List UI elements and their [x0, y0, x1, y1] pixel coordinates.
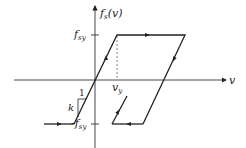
yield-displacement-label: vy: [112, 81, 123, 95]
hysteresis-diagram: fs(v) v fsy -fsy vy 1 k: [0, 0, 246, 148]
loop-main: [74, 35, 185, 124]
slope-rise-label: k: [68, 102, 74, 113]
y-axis-label: fs(v): [99, 7, 122, 21]
arrow-icon: [57, 122, 62, 126]
arrow-icon: [126, 122, 131, 126]
fsy-label: fsy: [73, 28, 87, 42]
slope-run-label: 1: [79, 88, 85, 98]
x-axis-label: v: [229, 74, 236, 87]
reload-branch: [112, 96, 127, 124]
arrow-icon: [145, 33, 150, 37]
neg-fsy-label: -fsy: [71, 117, 87, 131]
